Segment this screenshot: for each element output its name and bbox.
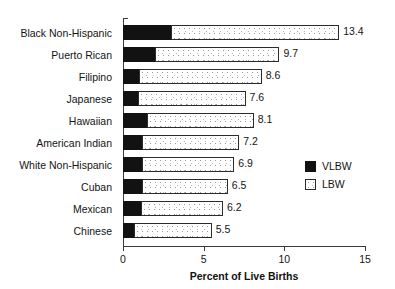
bar-segment-lbw: [139, 69, 262, 84]
table-row: 8.1: [123, 110, 365, 132]
table-row: 6.2: [123, 198, 365, 220]
chart-legend: VLBW LBW: [305, 158, 352, 194]
bar-segment-vlbw: [123, 223, 134, 238]
table-row: 9.7: [123, 44, 365, 66]
plot-area: 13.4 9.7 8.6 7.6 8.1 7.2 6.9 6.5 6.2 5.5: [123, 18, 365, 246]
bar-segment-lbw: [171, 25, 339, 40]
y-axis-top-cap: [123, 18, 128, 19]
table-row: 5.5: [123, 220, 365, 242]
category-label: Chinese: [0, 220, 118, 242]
bar-segment-lbw: [147, 113, 253, 128]
bar-segment-lbw: [155, 47, 279, 62]
bar-segment-vlbw: [123, 201, 141, 216]
category-label: Japanese: [0, 88, 118, 110]
x-axis-tick-label: 0: [120, 253, 126, 265]
bar-value-label: 8.1: [258, 112, 273, 127]
category-label: Cuban: [0, 176, 118, 198]
bar-segment-lbw: [134, 223, 211, 238]
bar-segment-vlbw: [123, 91, 138, 106]
legend-label: VLBW: [322, 160, 352, 172]
bar-rows: 13.4 9.7 8.6 7.6 8.1 7.2 6.9 6.5 6.2 5.5: [123, 22, 365, 242]
bar-value-label: 6.9: [238, 156, 253, 171]
bar-value-label: 5.5: [216, 222, 231, 237]
category-label: Hawaiian: [0, 110, 118, 132]
bar-value-label: 6.5: [232, 178, 247, 193]
table-row: 7.2: [123, 132, 365, 154]
x-axis-tick: [204, 246, 205, 251]
bar-value-label: 9.7: [283, 46, 298, 61]
category-label: Black Non-Hispanic: [0, 22, 118, 44]
low-birth-weight-bar-chart: Black Non-Hispanic Puerto Rican Filipino…: [0, 0, 395, 289]
bar-segment-lbw: [142, 135, 239, 150]
x-axis-tick-label: 5: [201, 253, 207, 265]
category-label: Puerto Rican: [0, 44, 118, 66]
bar-segment-vlbw: [123, 157, 142, 172]
bar-segment-vlbw: [123, 47, 155, 62]
table-row: 7.6: [123, 88, 365, 110]
category-label: Filipino: [0, 66, 118, 88]
bar-segment-lbw: [141, 201, 223, 216]
bar-value-label: 13.4: [343, 24, 363, 39]
category-axis-labels: Black Non-Hispanic Puerto Rican Filipino…: [0, 22, 118, 242]
category-label: American Indian: [0, 132, 118, 154]
legend-item-vlbw: VLBW: [305, 158, 352, 174]
table-row: 13.4: [123, 22, 365, 44]
bar-value-label: 8.6: [266, 68, 281, 83]
legend-item-lbw: LBW: [305, 176, 352, 192]
x-axis-line: [123, 246, 365, 247]
bar-segment-vlbw: [123, 25, 171, 40]
table-row: 8.6: [123, 66, 365, 88]
bar-segment-lbw: [138, 91, 246, 106]
bar-segment-vlbw: [123, 69, 139, 84]
bar-segment-lbw: [142, 179, 228, 194]
bar-value-label: 7.6: [250, 90, 265, 105]
bar-segment-lbw: [142, 157, 234, 172]
legend-swatch-icon: [305, 179, 316, 190]
x-axis-tick: [284, 246, 285, 251]
category-label: White Non-Hispanic: [0, 154, 118, 176]
x-axis-tick: [365, 246, 366, 251]
x-axis-tick-label: 10: [278, 253, 290, 265]
bar-value-label: 7.2: [243, 134, 258, 149]
bar-segment-vlbw: [123, 135, 142, 150]
category-label: Mexican: [0, 198, 118, 220]
x-axis-title: Percent of Live Births: [123, 270, 365, 282]
x-axis-tick: [123, 246, 124, 251]
bar-segment-vlbw: [123, 113, 147, 128]
x-axis-tick-label: 15: [359, 253, 371, 265]
legend-swatch-icon: [305, 161, 316, 172]
bar-segment-vlbw: [123, 179, 142, 194]
legend-label: LBW: [322, 178, 345, 190]
bar-value-label: 6.2: [227, 200, 242, 215]
